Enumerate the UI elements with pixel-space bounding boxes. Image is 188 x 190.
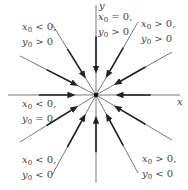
origin-point — [94, 93, 98, 97]
ray-lower-right-steep-arrow-icon — [108, 117, 124, 146]
label-xneg-ypos: x0 < 0, y0 > 0 — [22, 21, 56, 51]
ray-upper-right-shallow-arrow-icon — [117, 67, 145, 83]
ray-upper-right-steep-arrow-icon — [108, 48, 124, 75]
ray-upper-left-steep-arrow-icon — [67, 49, 83, 75]
label-xneg-yzero: x0 < 0, y0 = 0 — [22, 98, 56, 128]
ray-lower-right-shallow-arrow-icon — [117, 108, 145, 125]
label-xzero-ypos: x0 = 0, y0 > 0 — [98, 11, 132, 41]
x-axis-label: x — [177, 96, 183, 107]
ray-upper-left-shallow-arrow-icon — [47, 70, 75, 84]
ray-lower-left-steep-arrow-icon — [67, 117, 83, 147]
label-xpos-yneg: x0 > 0, y0 < 0 — [142, 153, 176, 183]
label-xpos-ypos: x0 > 0, y0 > 0 — [141, 18, 175, 48]
y-axis-label: y — [99, 0, 105, 11]
label-xneg-yneg: x0 < 0, y0 < 0 — [22, 154, 56, 184]
